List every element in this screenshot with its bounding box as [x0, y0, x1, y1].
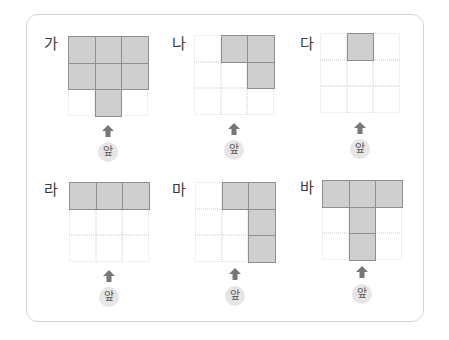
empty-cell: [320, 33, 347, 60]
shape-grid: [322, 180, 402, 260]
shape-grid: [69, 182, 149, 262]
filled-cell: [375, 180, 403, 208]
filled-cell: [221, 35, 249, 63]
filled-cell: [248, 209, 276, 237]
filled-cell: [247, 35, 275, 63]
filled-cell: [121, 63, 149, 91]
empty-cell: [96, 235, 123, 262]
shape-grid: [320, 33, 400, 113]
empty-cell: [222, 209, 249, 236]
empty-cell: [347, 60, 374, 87]
arrow-up-icon: [355, 265, 369, 279]
empty-cell: [373, 86, 400, 113]
arrow-up-icon: [227, 122, 241, 136]
panel-label: 바: [300, 181, 314, 196]
filled-cell: [68, 36, 96, 64]
panel-label: 라: [44, 183, 58, 198]
filled-cell: [95, 63, 123, 91]
empty-cell: [221, 88, 248, 115]
front-badge: 앞: [224, 140, 244, 160]
front-badge: 앞: [352, 284, 372, 304]
empty-cell: [222, 235, 249, 262]
shape-grid: [194, 35, 274, 115]
empty-cell: [195, 209, 222, 236]
empty-cell: [322, 207, 349, 234]
filled-cell: [349, 207, 377, 235]
panel-label: 마: [172, 183, 186, 198]
filled-cell: [122, 182, 150, 210]
front-badge: 앞: [99, 287, 119, 307]
arrow-up-icon: [101, 124, 115, 138]
filled-cell: [347, 33, 375, 61]
filled-cell: [69, 182, 97, 210]
empty-cell: [194, 88, 221, 115]
filled-cell: [121, 36, 149, 64]
empty-cell: [247, 88, 274, 115]
filled-cell: [322, 180, 350, 208]
empty-cell: [195, 235, 222, 262]
empty-cell: [375, 207, 402, 234]
empty-cell: [320, 86, 347, 113]
empty-cell: [221, 62, 248, 89]
front-badge: 앞: [225, 286, 245, 306]
filled-cell: [349, 180, 377, 208]
panel-label: 나: [172, 37, 186, 52]
empty-cell: [194, 35, 221, 62]
empty-cell: [121, 89, 148, 116]
empty-cell: [69, 235, 96, 262]
filled-cell: [68, 63, 96, 91]
filled-cell: [222, 182, 250, 210]
empty-cell: [122, 209, 149, 236]
panel-label: 가: [44, 37, 58, 52]
empty-cell: [195, 182, 222, 209]
filled-cell: [248, 235, 276, 263]
shape-grid: [68, 36, 148, 116]
empty-cell: [322, 233, 349, 260]
arrow-up-icon: [102, 269, 116, 283]
empty-cell: [194, 62, 221, 89]
filled-cell: [96, 182, 124, 210]
panel-label: 다: [300, 37, 314, 52]
arrow-up-icon: [228, 267, 242, 281]
empty-cell: [96, 209, 123, 236]
front-badge: 앞: [98, 142, 118, 162]
empty-cell: [347, 86, 374, 113]
filled-cell: [95, 89, 123, 117]
filled-cell: [349, 233, 377, 261]
empty-cell: [68, 89, 95, 116]
empty-cell: [373, 60, 400, 87]
front-badge: 앞: [350, 139, 370, 159]
shape-grid: [195, 182, 275, 262]
empty-cell: [375, 233, 402, 260]
empty-cell: [122, 235, 149, 262]
filled-cell: [247, 62, 275, 90]
filled-cell: [95, 36, 123, 64]
arrow-up-icon: [353, 121, 367, 135]
empty-cell: [320, 60, 347, 87]
empty-cell: [373, 33, 400, 60]
empty-cell: [69, 209, 96, 236]
filled-cell: [248, 182, 276, 210]
